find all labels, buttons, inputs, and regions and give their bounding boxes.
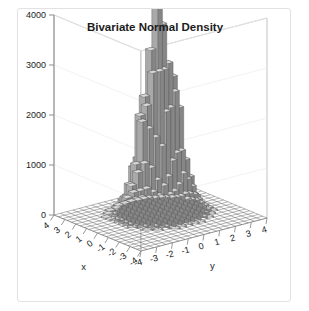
z-tick-label: 1000 xyxy=(26,160,46,170)
y-tick-label: 2 xyxy=(229,232,236,243)
x-axis-title: x xyxy=(81,261,86,272)
plot-area: 01000200030004000z-4-3-2-101234x-4-3-2-1… xyxy=(26,9,268,272)
y-tick-label: -4 xyxy=(133,257,143,269)
y-tick-label: 3 xyxy=(245,228,252,239)
y-tick-label: 1 xyxy=(213,236,220,247)
y-axis-tick xyxy=(266,218,267,224)
bar-side-face xyxy=(164,183,168,203)
y-tick-label: -2 xyxy=(165,248,175,260)
y-axis-tick xyxy=(250,222,251,228)
x-tick-label: -1 xyxy=(94,242,106,255)
chart-title: Bivariate Normal Density xyxy=(87,21,224,33)
bivariate-normal-3d-plot: 01000200030004000z-4-3-2-101234x-4-3-2-1… xyxy=(18,9,291,302)
z-tick-label: 2000 xyxy=(26,110,46,120)
x-axis-tick xyxy=(127,247,131,253)
x-axis-tick xyxy=(105,238,109,244)
x-tick-label: 0 xyxy=(85,238,95,249)
y-axis-tick xyxy=(219,230,220,236)
x-tick-label: 4 xyxy=(41,220,51,231)
y-tick-label: -3 xyxy=(149,253,159,265)
figure-frame: 01000200030004000z-4-3-2-101234x-4-3-2-1… xyxy=(17,8,291,302)
x-axis-tick xyxy=(72,224,76,230)
x-axis-tick xyxy=(94,233,98,239)
z-tick-label: 0 xyxy=(41,210,46,220)
x-tick-label: 3 xyxy=(52,225,62,236)
x-axis-tick xyxy=(83,229,87,235)
x-tick-label: 1 xyxy=(74,234,84,245)
x-axis-tick xyxy=(61,220,65,226)
bar-side-face xyxy=(179,182,183,205)
x-tick-label: 2 xyxy=(63,229,73,240)
x-axis-tick xyxy=(116,242,120,248)
x-tick-label: -3 xyxy=(116,251,128,264)
y-axis-tick xyxy=(203,235,204,241)
x-tick-label: -2 xyxy=(105,246,117,259)
y-axis-title: y xyxy=(210,260,215,271)
z-tick-label: 4000 xyxy=(26,10,46,20)
y-tick-label: -1 xyxy=(180,244,190,256)
y-axis-tick xyxy=(235,226,236,232)
z-axis: 01000200030004000z xyxy=(26,9,54,220)
bar-side-face xyxy=(158,177,162,204)
x-axis-tick xyxy=(51,215,55,221)
y-tick-label: 4 xyxy=(261,224,268,235)
z-tick-label: 3000 xyxy=(26,60,46,70)
y-tick-label: 0 xyxy=(198,241,205,252)
